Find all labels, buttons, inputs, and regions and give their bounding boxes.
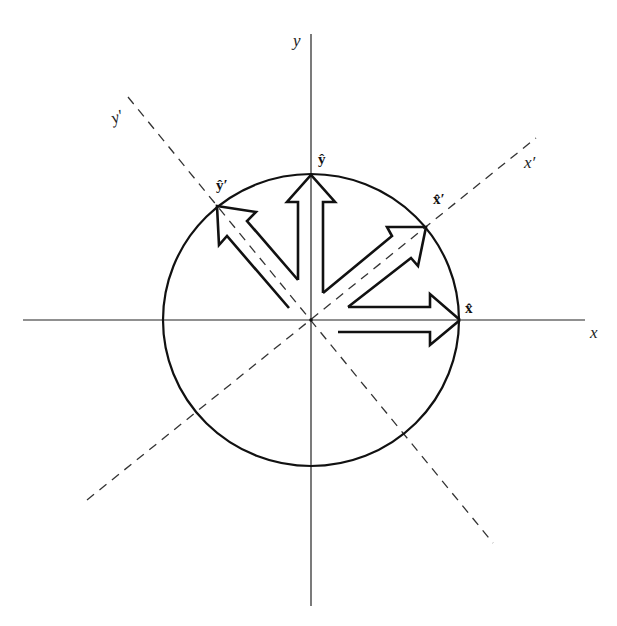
y-axis-label: y [291, 31, 301, 50]
rotated-axes-diagram: x y x′ y′ x̂ ŷ x̂′ ŷ′ [0, 0, 617, 626]
x-hat-prime-arrow [323, 227, 426, 307]
x-hat-label: x̂ [465, 300, 473, 316]
y-hat-prime-label: ŷ′ [216, 177, 228, 193]
x-hat-arrow-upper [348, 294, 460, 320]
origin-point [309, 318, 313, 322]
x-hat-prime-label: x̂′ [433, 191, 445, 207]
y-hat-label: ŷ [318, 151, 326, 167]
x-prime-axis-label: x′ [523, 153, 536, 172]
x-hat-arrow-lower [338, 320, 460, 345]
y-prime-axis-label: y′ [106, 106, 125, 128]
x-axis-label: x [589, 323, 598, 342]
